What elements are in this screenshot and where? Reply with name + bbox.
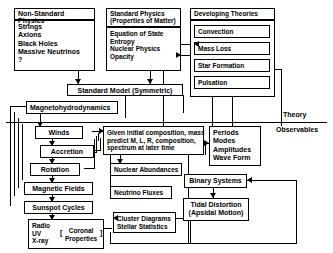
rotation-box: Rotation <box>30 163 80 176</box>
non-standard-item-black-holes: Black Holes <box>18 40 91 48</box>
stellar-model-line3: spectrum at later time <box>107 144 200 152</box>
developing-theory-pulsation: Pulsation <box>194 76 270 89</box>
cluster-diagrams-line2: Stellar Statistics <box>117 223 172 231</box>
accretion-box: Accretion <box>40 145 94 158</box>
tidal-distortion-line1: Tidal Distortion <box>187 201 245 209</box>
developing-theory-convection: Convection <box>194 25 270 38</box>
observables-label: Observables <box>276 126 318 133</box>
magnetohydrodynamics-box: Magnetohydrodynamics <box>26 101 118 114</box>
pulsation-observable-periods: Periods <box>213 129 257 137</box>
non-standard-item-axions: Axions <box>18 31 91 39</box>
standard-physics-header: Standard Physics (Properties of Matter) <box>106 8 181 27</box>
diagram-canvas: Theory Observables Non-Standard Physics … <box>0 0 333 253</box>
non-standard-item-massive-neutrinos: Massive Neutrinos <box>18 48 91 56</box>
non-standard-physics-header: Non-Standard Physics <box>14 8 95 20</box>
nuclear-abundances-box: Nuclear Abundances <box>110 163 182 176</box>
standard-physics-item-entropy: Entropy <box>110 38 177 46</box>
stellar-model-box: Given initial composition, mass predict … <box>103 126 204 155</box>
non-standard-item-strings: Strings <box>18 23 91 31</box>
developing-theories-header: Developing Theories <box>190 8 275 20</box>
coronal-properties-line1: Coronal <box>65 227 97 235</box>
standard-physics-header-line2: (Properties of Matter) <box>110 17 177 24</box>
tidal-distortion-box: Tidal Distortion (Apsidal Motion) <box>183 198 249 221</box>
emission-coronal-box: Radio UV X-ray [ Coronal Properties ] <box>28 219 104 249</box>
developing-theory-star-formation: Star Formation <box>194 59 270 72</box>
tidal-distortion-line2: (Apsidal Motion) <box>187 209 245 217</box>
winds-box: Winds <box>35 126 83 139</box>
developing-theory-mass-loss: Mass Loss <box>194 42 270 55</box>
pulsation-observables-box: Periods Modes Amplitudes Wave Form <box>209 126 261 166</box>
emission-item-uv: UV <box>32 230 50 238</box>
bracket-left: [ <box>60 229 62 237</box>
standard-physics-header-line1: Standard Physics <box>110 10 177 17</box>
standard-model-box: Standard Model (Symmetric) <box>67 84 183 96</box>
stellar-model-line2: predict M, L, R, composition, <box>107 137 200 145</box>
binary-systems-box: Binary Systems <box>184 174 247 188</box>
magnetic-fields-box: Magnetic Fields <box>24 182 93 195</box>
bracket-right: ] <box>100 229 102 237</box>
neutrino-fluxes-box: Neutrino Fluxes <box>110 186 172 199</box>
cluster-diagrams-box: Cluster Diagrams Stellar Statistics <box>113 212 176 233</box>
standard-physics-item-nuclear-physics: Nuclear Physics <box>110 45 177 53</box>
stellar-model-line1: Given initial composition, mass <box>107 129 200 137</box>
standard-physics-box: Equation of State Entropy Nuclear Physic… <box>106 27 181 71</box>
cluster-diagrams-line1: Cluster Diagrams <box>117 215 172 223</box>
theory-label: Theory <box>283 111 306 118</box>
emission-item-xray: X-ray <box>32 237 50 245</box>
pulsation-observable-modes: Modes <box>213 137 257 145</box>
standard-physics-item-opacity: Opacity <box>110 53 177 61</box>
pulsation-observable-amplitudes: Amplitudes <box>213 146 257 154</box>
standard-physics-item-equation-of-state: Equation of State <box>110 30 177 38</box>
emission-item-radio: Radio <box>32 222 50 230</box>
coronal-properties-line2: Properties <box>65 235 97 243</box>
non-standard-physics-box: Strings Axions Black Holes Massive Neutr… <box>14 20 95 71</box>
non-standard-item-unknown: ? <box>18 56 91 64</box>
pulsation-observable-wave-form: Wave Form <box>213 154 257 162</box>
sunspot-cycles-box: Sunspot Cycles <box>24 201 93 214</box>
